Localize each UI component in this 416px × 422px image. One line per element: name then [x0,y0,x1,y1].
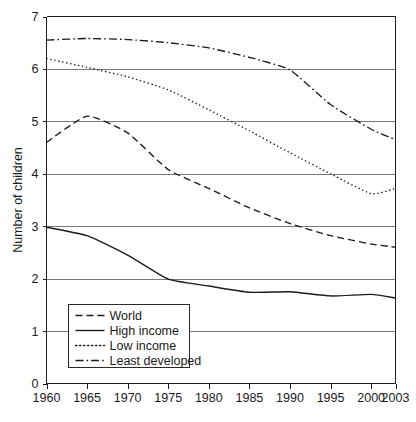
y-axis-title: Number of children [11,147,25,253]
y-tick-label-3: 3 [32,220,39,234]
legend-label-high-income: High income [110,324,180,338]
chart-background [0,0,416,422]
y-tick-label-7: 7 [32,10,39,24]
x-tick-label-1965: 1965 [73,391,101,405]
legend[interactable]: WorldHigh incomeLow incomeLeast develope… [69,305,202,368]
x-tick-label-1985: 1985 [236,391,264,405]
y-tick-label-6: 6 [32,62,39,76]
x-tick-label-1990: 1990 [276,391,304,405]
x-tick-label-1960: 1960 [33,391,61,405]
figure-container: 01234567 1960196519701975198019851990199… [0,0,416,422]
legend-label-world: World [110,309,142,323]
y-tick-label-2: 2 [32,272,39,286]
line-chart: 01234567 1960196519701975198019851990199… [0,0,416,422]
x-tick-label-1975: 1975 [154,391,182,405]
legend-label-low-income: Low income [110,339,177,353]
x-tick-label-2003: 2003 [382,391,410,405]
x-tick-label-1995: 1995 [317,391,345,405]
y-tick-label-4: 4 [32,167,39,181]
x-tick-label-1970: 1970 [114,391,142,405]
x-tick-label-1980: 1980 [195,391,223,405]
y-tick-label-1: 1 [32,325,39,339]
y-tick-label-5: 5 [32,115,39,129]
y-tick-label-0: 0 [32,377,39,391]
legend-label-least-developed: Least developed [110,354,202,368]
